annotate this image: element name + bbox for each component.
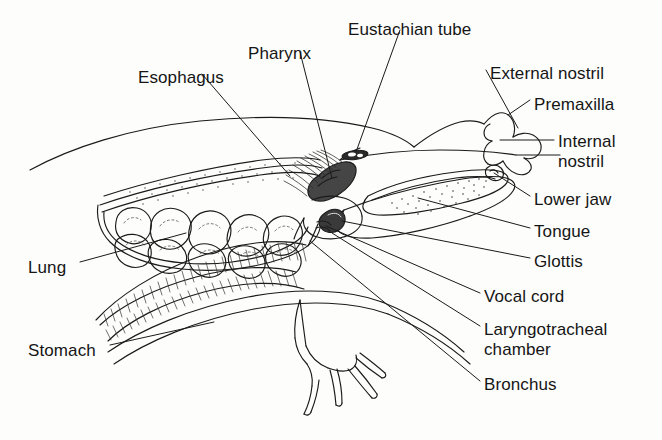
lung-capsule	[98, 205, 321, 270]
label-internal-nostril: Internal nostril	[558, 132, 616, 172]
label-stomach: Stomach	[28, 341, 96, 361]
pharynx-region	[308, 162, 356, 201]
label-bronchus: Bronchus	[484, 375, 557, 395]
label-pharynx: Pharynx	[248, 44, 311, 64]
label-vocal-cord: Vocal cord	[484, 287, 564, 307]
label-lung: Lung	[28, 258, 66, 278]
label-external-nostril: External nostril	[490, 64, 604, 84]
label-eustachian-tube: Eustachian tube	[348, 20, 471, 40]
label-lower-jaw: Lower jaw	[534, 190, 611, 210]
label-tongue: Tongue	[534, 222, 590, 242]
dorsal-body-outline	[30, 117, 484, 170]
lung-alveoli-dotted-detail	[124, 218, 296, 257]
label-esophagus: Esophagus	[138, 68, 224, 88]
label-premaxilla: Premaxilla	[534, 95, 614, 115]
stomach-hatching	[106, 270, 297, 340]
label-laryngotracheal-chamber: Laryngotracheal chamber	[484, 320, 607, 360]
label-glottis: Glottis	[534, 252, 583, 272]
lower-jaw	[335, 177, 514, 239]
esophagus-tube	[100, 158, 322, 212]
esophagus-stipple	[129, 162, 302, 204]
eustachian-tube-opening	[342, 149, 369, 161]
forelimb-foot	[295, 300, 386, 415]
anatomical-figure-page: Esophagus Pharynx Eustachian tube Extern…	[0, 0, 662, 440]
